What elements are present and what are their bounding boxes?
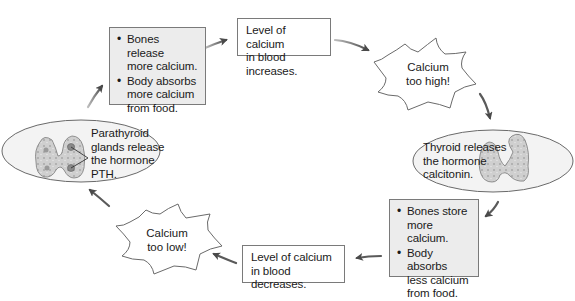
low-response-list: Bones release more calcium. Body absorbs… xyxy=(116,33,199,115)
too-low-label: Calcium too low! xyxy=(137,226,197,254)
too-high-label: Calcium too high! xyxy=(398,60,458,88)
arrow-icon xyxy=(90,190,109,206)
high-response-box: Bones store more calcium. Body absorbs l… xyxy=(389,199,479,277)
arrow-icon xyxy=(480,94,490,118)
arrow-icon xyxy=(486,202,498,216)
arrow-icon xyxy=(88,86,102,107)
list-item: Body absorbs more calcium from food. xyxy=(116,75,199,116)
increase-level-box: Level of calcium in blood increases. xyxy=(237,18,331,56)
list-item: Body absorbs less calcium from food. xyxy=(396,247,472,301)
list-item: Bones store more calcium. xyxy=(396,205,472,246)
thyroid-label: Thyroid releases the hormone calcitonin. xyxy=(423,141,506,182)
arrow-icon xyxy=(335,40,368,50)
parathyroid-label: Parathyroid glands release the hormone P… xyxy=(91,127,164,181)
high-response-list: Bones store more calcium. Body absorbs l… xyxy=(396,205,472,301)
list-item: Bones release more calcium. xyxy=(116,33,199,74)
arrow-icon xyxy=(357,256,381,258)
decrease-level-box: Level of calcium in blood decreases. xyxy=(242,245,345,283)
arrow-icon xyxy=(214,254,236,263)
low-response-box: Bones release more calcium. Body absorbs… xyxy=(109,27,206,105)
arrow-icon xyxy=(205,40,226,48)
